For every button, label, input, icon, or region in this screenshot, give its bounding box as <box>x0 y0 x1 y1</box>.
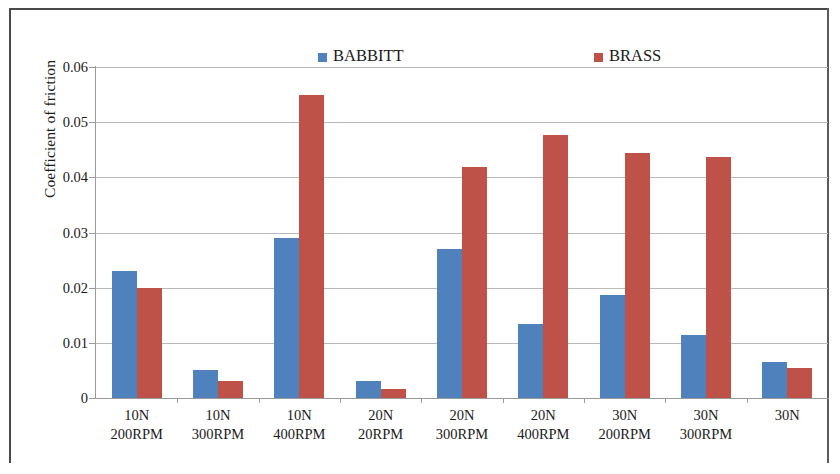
bar-brass-9 <box>787 368 812 398</box>
x-axis-label-speed: 300RPM <box>665 425 746 444</box>
x-axis-line <box>95 398 829 399</box>
y-tick-label: 0.02 <box>0 279 88 296</box>
x-tick-mark <box>503 398 504 403</box>
x-axis-label-2: 10N300RPM <box>177 406 258 443</box>
x-axis-label-8: 30N300RPM <box>665 406 746 443</box>
bar-babbitt-9 <box>762 362 787 398</box>
legend-item-brass: BRASS <box>594 46 661 66</box>
x-tick-mark <box>259 398 260 403</box>
y-tick-label: 0.06 <box>0 59 88 76</box>
x-axis-label-load: 30N <box>747 406 828 425</box>
x-axis-label-1: 10N200RPM <box>96 406 177 443</box>
y-tick-mark <box>89 233 96 234</box>
x-axis-label-speed: 400RPM <box>259 425 340 444</box>
x-tick-mark <box>340 398 341 403</box>
x-axis-label-load: 30N <box>584 406 665 425</box>
x-axis-label-load: 20N <box>503 406 584 425</box>
x-axis-label-load: 10N <box>259 406 340 425</box>
y-tick-mark <box>89 122 96 123</box>
x-axis-label-4: 20N20RPM <box>340 406 421 443</box>
bar-babbitt-4 <box>356 381 381 398</box>
bar-babbitt-6 <box>518 324 543 398</box>
x-axis-label-3: 10N400RPM <box>259 406 340 443</box>
bar-babbitt-2 <box>193 370 218 398</box>
x-axis-label-speed: 200RPM <box>96 425 177 444</box>
x-axis-label-load: 20N <box>421 406 502 425</box>
bar-brass-4 <box>381 389 406 398</box>
x-axis-label-load: 10N <box>96 406 177 425</box>
bar-brass-6 <box>543 135 568 398</box>
x-axis-label-load: 10N <box>177 406 258 425</box>
y-tick-label: 0 <box>0 390 88 407</box>
gridline <box>96 122 828 123</box>
bar-chart: Coefficient of friction BABBITT BRASS 00… <box>0 0 840 474</box>
bar-brass-2 <box>218 381 243 398</box>
chart-legend: BABBITT BRASS <box>0 46 840 68</box>
x-axis-label-speed: 400RPM <box>503 425 584 444</box>
x-axis-label-7: 30N200RPM <box>584 406 665 443</box>
x-axis-label-9: 30N <box>747 406 828 425</box>
y-tick-mark <box>89 398 96 399</box>
x-axis-label-speed: 300RPM <box>421 425 502 444</box>
x-tick-mark <box>584 398 585 403</box>
bar-babbitt-7 <box>600 295 625 398</box>
y-tick-label: 0.04 <box>0 169 88 186</box>
x-axis-label-load: 30N <box>665 406 746 425</box>
bar-brass-8 <box>706 157 731 398</box>
plot-area <box>96 67 828 398</box>
bar-babbitt-5 <box>437 249 462 398</box>
x-tick-mark <box>747 398 748 403</box>
bar-babbitt-1 <box>112 271 137 398</box>
bar-brass-3 <box>299 95 324 398</box>
bar-brass-5 <box>462 167 487 398</box>
y-tick-label: 0.01 <box>0 334 88 351</box>
bar-brass-1 <box>137 288 162 398</box>
y-tick-mark <box>89 67 96 68</box>
y-tick-mark <box>89 177 96 178</box>
x-axis-label-speed: 20RPM <box>340 425 421 444</box>
legend-swatch-brass <box>594 53 603 62</box>
y-tick-label: 0.03 <box>0 224 88 241</box>
bar-babbitt-8 <box>681 335 706 398</box>
y-tick-label: 0.05 <box>0 114 88 131</box>
legend-item-babbitt: BABBITT <box>318 46 404 66</box>
x-tick-mark <box>177 398 178 403</box>
legend-label-brass: BRASS <box>609 46 661 66</box>
y-tick-mark <box>89 288 96 289</box>
bar-brass-7 <box>625 153 650 398</box>
legend-swatch-babbitt <box>318 53 327 62</box>
bar-babbitt-3 <box>274 238 299 398</box>
legend-label-babbitt: BABBITT <box>333 46 404 66</box>
x-tick-mark <box>421 398 422 403</box>
x-axis-label-6: 20N400RPM <box>503 406 584 443</box>
x-axis-label-load: 20N <box>340 406 421 425</box>
x-axis-label-5: 20N300RPM <box>421 406 502 443</box>
y-tick-mark <box>89 343 96 344</box>
x-axis-label-speed: 200RPM <box>584 425 665 444</box>
x-tick-mark <box>665 398 666 403</box>
x-axis-label-speed: 300RPM <box>177 425 258 444</box>
